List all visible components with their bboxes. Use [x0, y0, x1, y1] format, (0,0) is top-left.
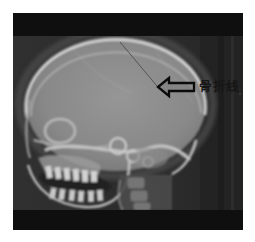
film-bottom-band	[13, 210, 243, 230]
xray-figure: 骨折线	[13, 13, 243, 230]
skull-xray-image: 骨折线	[13, 13, 243, 230]
film-speck	[239, 93, 241, 95]
film-top-band	[13, 13, 243, 36]
fracture-label: 骨折线	[199, 79, 240, 94]
